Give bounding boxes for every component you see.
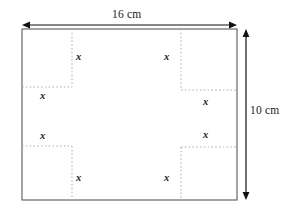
x-label-bottom-right-horizontal: x [203,129,208,140]
notch-bottom-right [181,147,237,200]
x-label-bottom-left-horizontal: x [40,130,45,141]
height-dimension-arrow [243,29,250,200]
width-dimension-arrow [22,22,237,29]
x-label-bottom-left-vertical: x [76,172,81,183]
notch-top-right [181,29,237,90]
notch-bottom-left [22,146,72,200]
main-rectangle [22,29,237,200]
x-label-top-left-horizontal: x [40,90,45,101]
x-label-bottom-right-vertical: x [164,172,169,183]
height-dimension-label: 10 cm [250,104,279,116]
notch-top-left [22,29,72,87]
x-label-top-right-horizontal: x [203,96,208,107]
x-label-top-right-vertical: x [164,51,169,62]
geometry-diagram [0,0,292,214]
x-label-top-left-vertical: x [76,51,81,62]
width-dimension-label: 16 cm [112,8,141,20]
